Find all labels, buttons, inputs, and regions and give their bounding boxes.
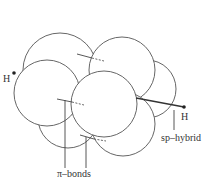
h-atom-right-label: H (181, 112, 188, 122)
h-atom-left-dot (12, 71, 16, 75)
sp-hybrid-label: sp–hybrid (161, 133, 201, 143)
h-atom-right-dot (182, 105, 186, 109)
pi-bonds-label: π–bonds (57, 169, 91, 179)
orbital-lobe-center-front (71, 71, 137, 137)
orbital-lobe-left-front (14, 60, 80, 126)
h-atom-left-label: H (3, 74, 10, 84)
orbital-diagram (0, 0, 209, 182)
